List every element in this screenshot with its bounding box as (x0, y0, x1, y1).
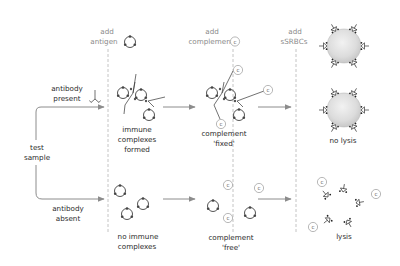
complement-icon (216, 119, 225, 128)
complement-icon (254, 183, 263, 192)
complement-icon (223, 180, 232, 189)
step-antigen-label: antigen (90, 37, 117, 46)
complement-icon (308, 222, 317, 231)
complement-icon (233, 65, 242, 74)
complement-icon (230, 37, 239, 46)
immune-complexes-formed-3: formed (124, 145, 150, 154)
step-add-ssrbcs-header: add sSRBCs (281, 27, 308, 46)
step-ssrbcs-label: sSRBCs (281, 37, 308, 46)
complement-fixed-2: 'fixed' (213, 139, 235, 148)
arrow-antibody-absent (36, 165, 104, 199)
complement-free (207, 180, 264, 222)
arrow-antibody-present (36, 107, 104, 140)
no-lysis-label: no lysis (330, 136, 357, 145)
step-add-label: add (205, 27, 219, 36)
srbc-cell (319, 86, 369, 133)
no-immune-complexes-1: no immune (118, 232, 159, 241)
antibody-absent-label-2: absent (56, 214, 81, 223)
complement-fixation-diagram: c add antigen add complement add sSRBCs … (0, 0, 400, 266)
test-sample-label-2: sample (24, 153, 51, 162)
complement-free-2: 'free' (222, 243, 240, 252)
antibody-absent-label-1: antibody (52, 204, 84, 213)
test-sample-label-1: test (30, 143, 44, 152)
immune-complexes-formed-2: complexes (118, 135, 157, 144)
complement-icon (317, 177, 326, 186)
complement-fixed-complex (206, 65, 273, 128)
immune-complex (117, 74, 165, 121)
step-add-label: add (100, 27, 114, 36)
no-immune-complexes-2: complexes (118, 242, 157, 251)
complement-icon (223, 213, 232, 222)
free-antigens (114, 184, 149, 219)
lysed-cell-fragments (308, 177, 380, 231)
immune-complexes-formed-1: immune (122, 125, 152, 134)
antigen-icon (124, 35, 136, 47)
step-complement-label: complement (188, 37, 233, 46)
antibody-present-label-2: present (53, 94, 81, 103)
step-add-complement-header: add complement (188, 27, 239, 46)
complement-icon (371, 189, 380, 198)
lysis-label: lysis (336, 232, 352, 241)
step-add-antigen-header: add antigen (90, 27, 136, 48)
antibody-icon (90, 90, 101, 103)
step-add-label: add (288, 27, 302, 36)
srbc-cell (319, 22, 369, 69)
complement-free-1: complement (208, 233, 253, 242)
antibody-present-label-1: antibody (51, 84, 83, 93)
complement-icon (263, 85, 272, 94)
complement-fixed-1: complement (201, 129, 246, 138)
